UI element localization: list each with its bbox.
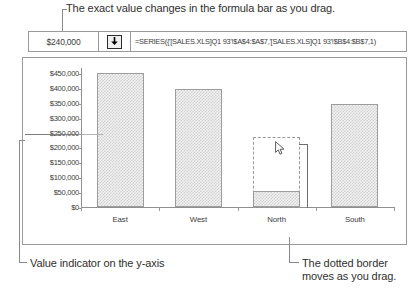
y-axis-tick-mark xyxy=(78,178,82,179)
y-axis-tick-mark xyxy=(78,104,82,105)
y-axis-tick-mark xyxy=(78,119,82,120)
bar-east[interactable] xyxy=(97,73,144,207)
y-axis-tick-mark xyxy=(78,148,82,149)
chart-panel: $450,000$400,000$350,000$300,000$250,000… xyxy=(22,57,407,245)
plot-area: EastWestNorthSouth xyxy=(81,68,394,208)
y-axis-tick-label: $150,000 xyxy=(50,160,79,168)
y-axis-label-column: $450,000$400,000$350,000$300,000$250,000… xyxy=(27,58,79,244)
y-axis-tick-mark xyxy=(78,89,82,90)
drag-handle-top-line xyxy=(299,144,307,145)
x-axis-category-label: West xyxy=(190,215,207,224)
y-axis-tick-mark xyxy=(78,134,82,135)
x-axis-category-label: North xyxy=(267,215,286,224)
value-indicator-line xyxy=(25,134,81,135)
y-axis-tick-label: $200,000 xyxy=(50,145,79,153)
y-axis-tick-label: $100,000 xyxy=(50,174,79,182)
right-annotation-leader-vertical xyxy=(289,237,290,262)
down-arrow-icon xyxy=(110,37,119,46)
y-axis-tick-label: $300,000 xyxy=(50,115,79,123)
y-axis-tick-label: $350,000 xyxy=(50,100,79,108)
dropdown-cell xyxy=(99,32,131,51)
x-axis-tick-mark xyxy=(238,207,239,211)
left-annotation-leader-vertical xyxy=(19,140,20,262)
left-annotation-leader-horizontal xyxy=(19,262,27,263)
x-axis-tick-mark xyxy=(394,207,395,211)
y-axis-tick-label: $450,000 xyxy=(50,70,79,78)
y-axis-tick-mark xyxy=(78,74,82,75)
x-axis-category-label: South xyxy=(345,215,365,224)
drag-handle-line[interactable] xyxy=(307,144,308,208)
bar-west[interactable] xyxy=(175,89,222,207)
y-axis-tick-label: $50,000 xyxy=(54,189,79,197)
right-annotation-leader-horizontal xyxy=(289,262,299,263)
y-axis-tick-label: $400,000 xyxy=(50,85,79,93)
top-annotation-text: The exact value changes in the formula b… xyxy=(66,2,335,14)
y-axis-tick-mark xyxy=(78,193,82,194)
x-axis-tick-mark xyxy=(159,207,160,211)
right-annotation-text: The dotted border moves as you drag. xyxy=(302,257,412,283)
y-axis-tick-mark xyxy=(78,163,82,164)
y-axis-tick-mark xyxy=(78,208,82,209)
value-indicator-box[interactable]: $240,000 xyxy=(29,32,99,51)
formula-input[interactable]: =SERIES({'[SALES.XLS]Q1 93'!$A$4:$A$7,'[… xyxy=(131,32,406,51)
arrow-pointer-icon xyxy=(275,141,286,160)
down-arrow-button[interactable] xyxy=(107,35,122,49)
bar-south[interactable] xyxy=(331,104,378,207)
x-axis-tick-mark xyxy=(316,207,317,211)
formula-bar: $240,000 =SERIES({'[SALES.XLS]Q1 93'!$A$… xyxy=(28,31,407,52)
left-annotation-text: Value indicator on the y-axis xyxy=(30,257,164,270)
top-annotation-leader-vertical xyxy=(62,9,63,31)
value-indicator-tick xyxy=(81,134,103,135)
x-axis-category-label: East xyxy=(113,215,128,224)
